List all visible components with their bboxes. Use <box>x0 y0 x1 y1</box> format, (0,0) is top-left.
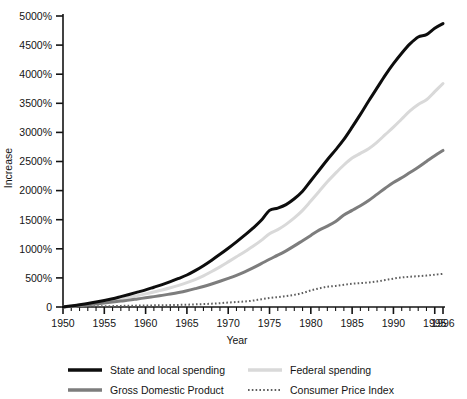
x-axis-tick-label: 1975 <box>258 317 282 329</box>
y-axis-tick-label: 3000% <box>19 126 52 138</box>
legend-label: Gross Domestic Product <box>110 384 224 396</box>
y-axis-title: Increase <box>2 148 14 188</box>
x-axis-tick-label: 1955 <box>93 317 117 329</box>
y-axis-tick-label: 4000% <box>19 68 52 80</box>
y-axis-tick-label: 4500% <box>19 39 52 51</box>
data-series-group <box>63 24 443 307</box>
x-axis-title: Year <box>226 334 248 346</box>
y-axis-tick-label: 1000% <box>19 243 52 255</box>
legend-label: Federal spending <box>290 364 371 376</box>
x-axis-tick-label: 1970 <box>217 317 241 329</box>
legend-label: Consumer Price Index <box>290 384 395 396</box>
chart-legend: State and local spendingFederal spending… <box>68 364 395 396</box>
y-axis-tick-label: 0 <box>46 301 52 313</box>
y-axis-tick-label: 2000% <box>19 184 52 196</box>
y-axis-tick-label: 500% <box>25 272 52 284</box>
x-axis-tick-label: 1950 <box>51 317 75 329</box>
y-axis-tick-label: 5000% <box>19 10 52 22</box>
series-line <box>63 24 443 307</box>
y-axis-tick-label: 2500% <box>19 155 52 167</box>
x-axis-tick-label: 1996 <box>431 317 455 329</box>
x-axis: 1950195519601965197019751980198519901995… <box>51 307 455 329</box>
y-axis-tick-label: 3500% <box>19 97 52 109</box>
legend-label: State and local spending <box>110 364 225 376</box>
x-axis-tick-label: 1980 <box>299 317 323 329</box>
x-axis-tick-label: 1990 <box>382 317 406 329</box>
y-axis: 0500%1000%1500%2000%2500%3000%3500%4000%… <box>19 10 63 313</box>
chart-container: 0500%1000%1500%2000%2500%3000%3500%4000%… <box>0 0 467 399</box>
x-axis-tick-label: 1960 <box>134 317 158 329</box>
series-line <box>63 84 443 307</box>
x-axis-tick-label: 1965 <box>175 317 199 329</box>
y-axis-tick-label: 1500% <box>19 214 52 226</box>
x-axis-tick-label: 1985 <box>340 317 364 329</box>
line-chart: 0500%1000%1500%2000%2500%3000%3500%4000%… <box>0 0 467 399</box>
